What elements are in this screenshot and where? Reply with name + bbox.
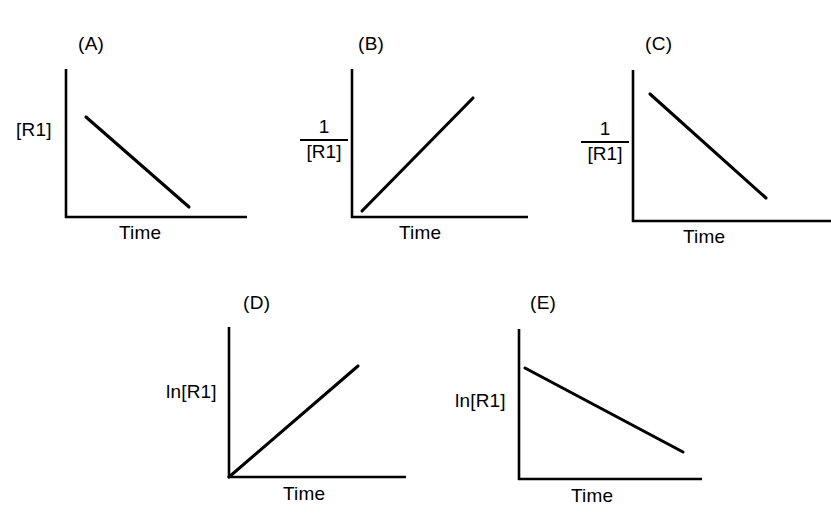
panel-e-axes [518, 329, 702, 480]
panel-e-plot [0, 0, 831, 524]
panel-e-data-line [525, 368, 683, 452]
figure-root: (A) [R1] Time (B) 1 [R1] Time (C) [0, 0, 831, 524]
